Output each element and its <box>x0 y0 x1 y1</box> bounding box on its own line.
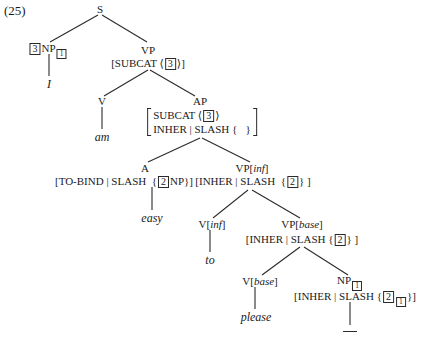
tag-box: 3 <box>203 110 214 122</box>
node-vp-base: VP[base] <box>281 218 323 231</box>
node-ap: AP <box>193 95 207 108</box>
node-label-feature: inf <box>253 162 265 174</box>
node-label: NP <box>337 274 351 286</box>
node-s: S <box>97 3 103 16</box>
feature-text: NP}] <box>170 175 193 187</box>
vp-inf-features: [INHER | SLASH {2} ] <box>195 175 310 188</box>
node-label-feature: base <box>299 218 319 230</box>
avm-row-slash: INHER | SLASH { } <box>153 122 251 136</box>
node-vp: VP <box>141 44 155 57</box>
node-label: ] <box>222 218 226 230</box>
feature-text: SUBCAT ⟨ <box>153 109 202 121</box>
node-v-base: V[base] <box>242 275 277 288</box>
node-label: VP[ <box>235 162 253 174</box>
node-label: VP[ <box>281 218 299 230</box>
tag-box: 2 <box>287 176 298 188</box>
feature-text: [SUBCAT ⟨ <box>111 57 164 69</box>
node-v: V <box>98 95 106 108</box>
node-np-object: NP1 <box>337 274 363 287</box>
index-box: 1 <box>396 297 406 307</box>
word-to: to <box>205 254 214 267</box>
tag-box: 3 <box>29 43 40 55</box>
index-box: 1 <box>57 49 67 59</box>
node-v-inf: V[inf] <box>199 218 226 231</box>
tag-box: 3 <box>165 58 176 70</box>
node-label-feature: inf <box>210 218 222 230</box>
feature-text: ⟩] <box>177 57 185 69</box>
a-features: [TO-BIND | SLASH {2NP}] <box>55 175 193 188</box>
node-label: A <box>141 162 149 174</box>
vp-base-features: [INHER | SLASH {2} ] <box>246 233 359 246</box>
feature-text: [TO-BIND | SLASH { <box>55 175 157 187</box>
node-label: ] <box>319 218 323 230</box>
node-label: NP <box>41 42 55 54</box>
node-a: A <box>141 162 149 175</box>
node-label: VP <box>141 44 155 56</box>
node-label-feature: base <box>254 275 274 287</box>
node-label: ] <box>274 275 278 287</box>
word-i: I <box>47 78 51 91</box>
node-np-subject: 3NP1 <box>28 42 67 55</box>
node-label: V[ <box>199 218 211 230</box>
tag-box: 2 <box>158 176 169 188</box>
avm-row-subcat: SUBCAT ⟨3⟩ <box>153 108 251 122</box>
ap-avm: SUBCAT ⟨3⟩ INHER | SLASH { } <box>147 108 257 136</box>
feature-text: } ] <box>347 233 359 245</box>
word-easy: easy <box>141 212 162 225</box>
node-vp-inf: VP[inf] <box>235 162 268 175</box>
node-label: V <box>98 95 106 107</box>
feature-text: [INHER | SLASH { <box>195 175 286 187</box>
feature-text: [INHER | SLASH { <box>294 290 382 302</box>
node-label: AP <box>193 95 207 107</box>
feature-text: [INHER | SLASH { <box>246 233 334 245</box>
example-number: (25) <box>4 3 26 19</box>
vp-features: [SUBCAT ⟨3⟩] <box>111 57 185 70</box>
tag-box: 2 <box>383 291 394 303</box>
node-label: S <box>97 3 103 15</box>
trace-gap <box>343 331 357 332</box>
word-please: please <box>241 311 272 324</box>
node-label: V[ <box>242 275 254 287</box>
tag-box: 2 <box>335 234 346 246</box>
np-object-features: [INHER | SLASH {21}] <box>294 290 416 303</box>
feature-text: }] <box>407 290 416 302</box>
node-label: ] <box>265 162 269 174</box>
feature-text: ⟩ <box>215 109 219 121</box>
word-am: am <box>95 131 110 144</box>
feature-text: } ] <box>299 175 311 187</box>
